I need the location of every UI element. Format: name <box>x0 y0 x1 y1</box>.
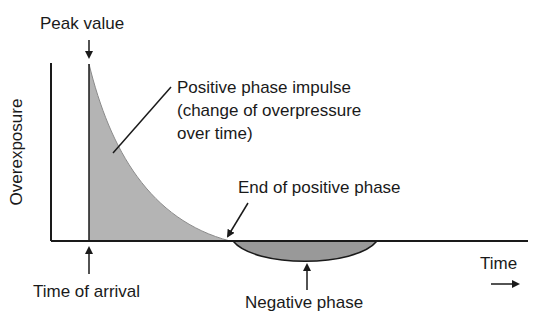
y-axis-label: Overexposure <box>7 99 27 206</box>
impulse-label-line2: (change of overpressure <box>177 101 361 121</box>
impulse-label-line3: over time) <box>177 124 253 144</box>
end-positive-phase-label: End of positive phase <box>238 178 401 198</box>
negative-phase-area <box>233 241 377 261</box>
blast-wave-diagram <box>0 0 547 326</box>
time-label: Time <box>480 254 517 274</box>
negative-phase-label: Negative phase <box>245 293 363 313</box>
impulse-leader-line <box>113 87 171 153</box>
time-of-arrival-label: Time of arrival <box>33 282 140 302</box>
peak-value-label: Peak value <box>40 14 124 34</box>
end-positive-arrow-icon <box>228 203 248 236</box>
impulse-label-line1: Positive phase impulse <box>177 78 351 98</box>
